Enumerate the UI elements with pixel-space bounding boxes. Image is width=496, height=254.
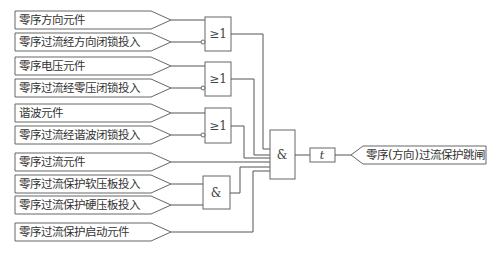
or-gate-2: ≥1 (201, 62, 231, 96)
gate-symbol: & (211, 186, 222, 200)
input-zero-seq-overcurrent: 零序过流元件 (15, 153, 171, 171)
and-gate-main: & (270, 130, 295, 179)
gate-symbol: ≥1 (209, 119, 227, 133)
input-label: 零序过流保护软压板投入 (19, 177, 141, 191)
input-zero-seq-direction: 零序方向元件 (15, 11, 171, 29)
gate-symbol: ≥1 (209, 27, 227, 41)
input-harmonic: 谐波元件 (15, 104, 171, 122)
input-label: 零序过流经零压闭锁投入 (19, 81, 141, 95)
input-zero-seq-voltage: 零序电压元件 (15, 57, 171, 75)
timer-block: t (310, 148, 335, 162)
input-label: 零序过流保护启动元件 (19, 225, 129, 239)
logic-diagram: 零序方向元件 零序过流经方向闭锁投入 零序电压元件 零序过流经零压闭锁投入 谐波… (0, 0, 496, 254)
or-gate-3: ≥1 (201, 108, 231, 143)
input-hard-plate: 零序过流保护硬压板投入 (15, 196, 171, 214)
timer-symbol: t (320, 149, 325, 162)
input-label: 零序过流元件 (19, 155, 85, 169)
inverter-bubble (201, 133, 205, 137)
input-harmonic-block-enable: 零序过流经谐波闭锁投入 (15, 126, 171, 144)
output-label: 零序(方向)过流保护跳闸 (366, 148, 485, 162)
input-label: 零序过流经方向闭锁投入 (19, 35, 141, 49)
input-soft-plate: 零序过流保护软压板投入 (15, 175, 171, 193)
input-label: 谐波元件 (19, 106, 63, 120)
inverter-bubble (201, 40, 205, 44)
input-label: 零序电压元件 (19, 59, 85, 73)
input-voltage-block-enable: 零序过流经零压闭锁投入 (15, 79, 171, 97)
and-gate-plates: & (203, 176, 230, 209)
input-label: 零序过流保护硬压板投入 (19, 198, 141, 212)
output-trip: 零序(方向)过流保护跳闸 (351, 146, 486, 164)
inverter-bubble (201, 86, 205, 90)
input-direction-block-enable: 零序过流经方向闭锁投入 (15, 33, 171, 51)
input-label: 零序方向元件 (19, 13, 85, 27)
or-gate-1: ≥1 (201, 17, 231, 51)
gate-symbol: & (277, 148, 288, 162)
input-start-element: 零序过流保护启动元件 (15, 223, 171, 241)
input-label: 零序过流经谐波闭锁投入 (19, 128, 141, 142)
gate-output-wires (230, 34, 270, 193)
gate-symbol: ≥1 (209, 72, 227, 86)
